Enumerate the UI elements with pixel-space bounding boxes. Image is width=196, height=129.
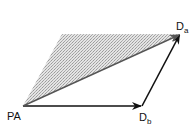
label-pa-text: PA — [7, 110, 21, 122]
label-da-main: D — [176, 20, 184, 32]
label-pa: PA — [7, 111, 21, 122]
label-da-subscript: a — [184, 26, 188, 35]
vector-diagram — [0, 0, 196, 129]
label-db-subscript: b — [147, 117, 151, 126]
label-da: Da — [176, 21, 188, 32]
label-db: Db — [139, 112, 151, 123]
label-db-main: D — [139, 111, 147, 123]
